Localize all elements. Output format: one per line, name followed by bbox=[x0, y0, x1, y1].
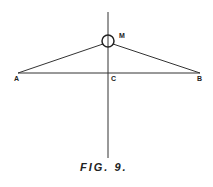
label-c: C bbox=[111, 75, 116, 82]
figure-caption: FIG. 9. bbox=[80, 161, 128, 173]
label-a: A bbox=[14, 75, 19, 82]
label-b: B bbox=[197, 75, 202, 82]
figure-9: A B C M FIG. 9. bbox=[0, 0, 213, 187]
line-am bbox=[18, 44, 103, 73]
line-mb bbox=[113, 44, 200, 73]
label-m: M bbox=[119, 32, 125, 39]
diagram-canvas bbox=[0, 0, 213, 187]
